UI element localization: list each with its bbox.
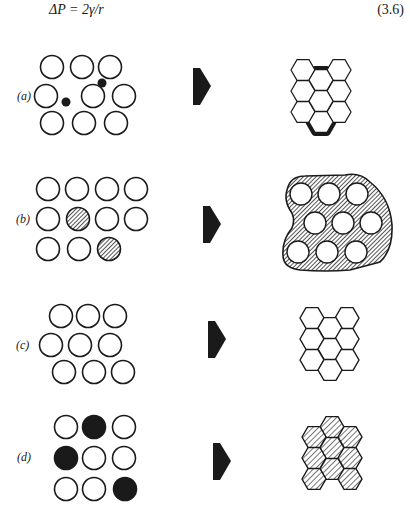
panel-b-matrix (283, 174, 392, 271)
panel-c-hexagons (300, 308, 359, 381)
panel-c-particles (40, 305, 135, 384)
panel-b-particles (37, 178, 148, 261)
panel-a-hexagons (291, 60, 351, 133)
arrow-icon (193, 68, 211, 105)
panel-d-particles (55, 416, 137, 501)
figure (0, 0, 410, 512)
panel-a-particles (35, 56, 136, 135)
arrow-icon (203, 206, 221, 243)
arrow-icon (208, 321, 226, 358)
panel-d-hexagons (302, 417, 362, 490)
arrow-icon (213, 443, 231, 480)
